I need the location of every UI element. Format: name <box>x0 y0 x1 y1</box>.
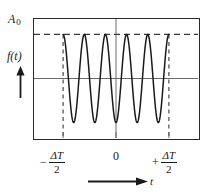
x-tick-label-origin: 0 <box>113 150 119 162</box>
right-arrow-icon <box>88 177 148 186</box>
fraction-denominator: 2 <box>53 164 61 175</box>
fraction-numerator: ΔT <box>161 150 176 161</box>
plot-frame <box>33 18 200 140</box>
plot-canvas <box>34 19 198 138</box>
plus-sign: + <box>152 155 159 170</box>
amplitude-letter: A <box>8 12 15 26</box>
up-arrow-icon <box>16 66 25 98</box>
amplitude-subscript: 0 <box>16 17 21 27</box>
x-tick-label-left: − ΔT 2 <box>40 150 65 175</box>
amplitude-label: A0 <box>8 13 21 27</box>
fraction-denominator: 2 <box>165 164 173 175</box>
wave-train-figure: A0 f(t) <box>0 0 218 195</box>
time-axis-label: t <box>150 176 153 187</box>
function-label: f(t) <box>7 50 22 62</box>
x-tick-label-right: + ΔT 2 <box>152 150 177 175</box>
fraction-delta-t-over-two: ΔT 2 <box>49 150 65 175</box>
fraction-delta-t-over-two-right: ΔT 2 <box>161 150 177 175</box>
minus-sign: − <box>40 155 47 170</box>
fraction-numerator: ΔT <box>49 150 64 161</box>
